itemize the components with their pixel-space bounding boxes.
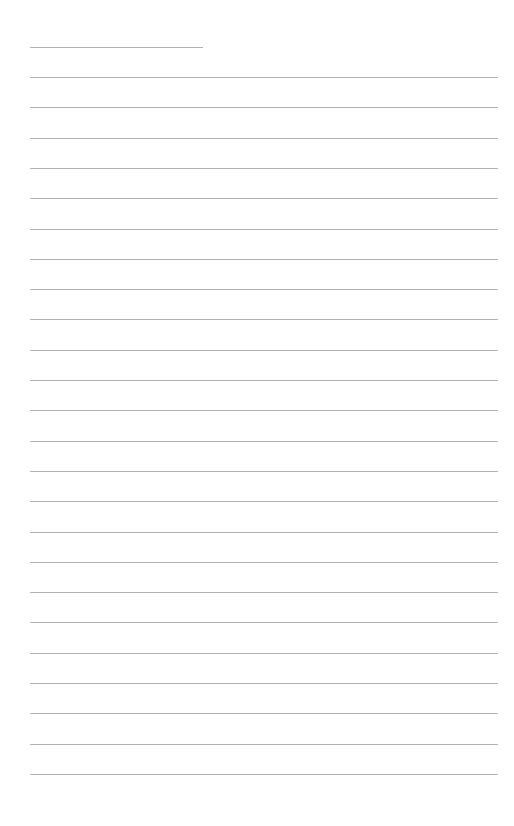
ruled-line [30,501,498,502]
ruled-line [30,289,498,290]
ruled-line [30,622,498,623]
header-line [30,47,203,48]
ruled-line [30,168,498,169]
ruled-line [30,319,498,320]
lined-page [0,0,514,826]
ruled-line [30,259,498,260]
ruled-line [30,471,498,472]
ruled-line [30,713,498,714]
ruled-line [30,683,498,684]
ruled-line [30,774,498,775]
ruled-line [30,198,498,199]
ruled-line [30,77,498,78]
ruled-line [30,410,498,411]
ruled-line [30,653,498,654]
ruled-line [30,229,498,230]
ruled-line [30,138,498,139]
ruled-line [30,532,498,533]
ruled-line [30,441,498,442]
ruled-line [30,592,498,593]
ruled-line [30,380,498,381]
ruled-line [30,107,498,108]
ruled-line [30,350,498,351]
ruled-line [30,744,498,745]
ruled-line [30,562,498,563]
